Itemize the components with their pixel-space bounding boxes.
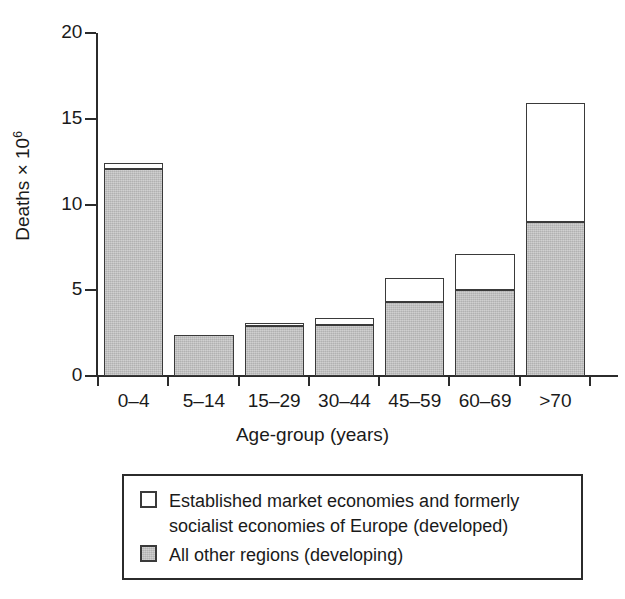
legend-swatch-developing-icon [140,545,157,562]
y-tick-mark [85,32,96,34]
x-tick-label: 15–29 [235,390,314,411]
x-tick-mark [167,375,169,386]
x-tick-mark [378,375,380,386]
bar-segment-developing[interactable] [385,302,444,376]
bar-group[interactable] [526,33,585,376]
x-tick-label: 0–4 [94,390,173,411]
y-tick-mark [85,204,96,206]
bar-segment-developed[interactable] [385,278,444,302]
bar-segment-developing[interactable] [174,335,233,376]
x-tick-mark [519,375,521,386]
legend-item-developing[interactable]: All other regions (developing) [140,543,403,568]
bar-group[interactable] [104,33,163,376]
bar-group[interactable] [174,33,233,376]
bar-segment-developed[interactable] [526,103,585,221]
bar-segment-developing[interactable] [526,222,585,376]
bar-group[interactable] [245,33,304,376]
x-tick-label: 5–14 [164,390,243,411]
y-tick-label: 0 [40,365,82,384]
x-tick-mark [589,375,591,386]
bar-group[interactable] [315,33,374,376]
legend-label-developed: Established market economies and formerl… [169,489,519,539]
bar-segment-developed[interactable] [315,318,374,325]
y-tick-mark [85,289,96,291]
legend-label-developing: All other regions (developing) [169,543,403,568]
x-tick-mark [97,375,99,386]
x-axis-title: Age-group (years) [0,424,625,446]
bar-group[interactable] [455,33,514,376]
x-tick-label: >70 [516,390,595,411]
legend-item-developed[interactable]: Established market economies and formerl… [140,489,519,539]
bar-segment-developing[interactable] [315,325,374,376]
x-tick-mark [238,375,240,386]
x-tick-label: 60–69 [445,390,524,411]
y-tick-label: 10 [40,194,82,213]
bar-segment-developing[interactable] [104,169,163,377]
legend-swatch-developed-icon [140,491,157,508]
x-tick-label: 30–44 [305,390,384,411]
chart-figure: Deaths × 106 05101520 0–45–1415–2930–444… [0,0,625,599]
bar-segment-developing[interactable] [455,290,514,376]
y-tick-label: 5 [40,279,82,298]
x-tick-mark [448,375,450,386]
bar-segment-developing[interactable] [245,326,304,376]
legend: Established market economies and formerl… [122,474,583,580]
y-tick-label: 20 [40,22,82,41]
x-tick-mark [308,375,310,386]
plot-area [96,28,601,376]
bar-group[interactable] [385,33,444,376]
y-tick-label: 15 [40,108,82,127]
y-tick-label-group: 05101520 [28,0,82,400]
x-tick-label: 45–59 [375,390,454,411]
y-tick-mark [85,118,96,120]
bar-segment-developed[interactable] [455,254,514,290]
y-axis-title-exponent: 6 [11,131,25,138]
